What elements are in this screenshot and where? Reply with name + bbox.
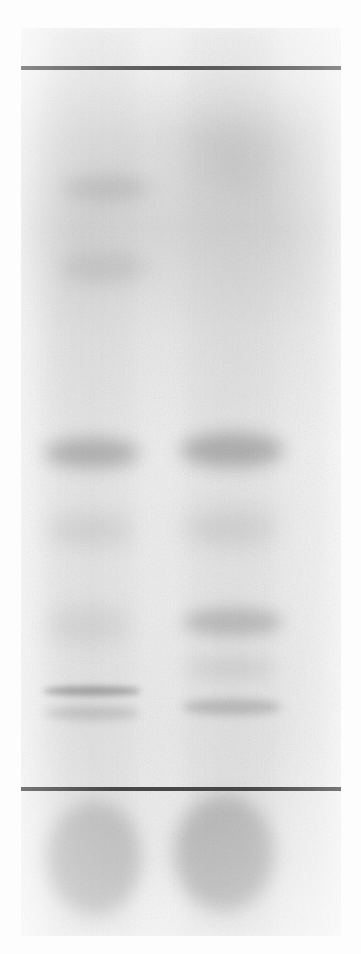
lane2-band-4 [183,608,283,636]
solvent-front-line [21,66,341,70]
lane1-band-2 [60,254,148,282]
origin-spot-lane-2 [174,795,274,911]
lane2-band-5 [185,658,277,678]
lane2-band-2 [180,433,284,467]
lane1-band-6 [43,686,141,696]
lane1-band-7 [44,706,140,720]
lane1-band-4 [46,514,134,546]
tlc-plate-figure: Thin-layer chromatography plate [0,0,361,954]
origin-spot-lane-1 [47,801,141,915]
lane2-band-3 [182,511,278,545]
chromatography-plate [21,28,341,936]
lane2-band-6 [182,699,282,715]
lane2-band-1 [188,110,292,190]
lane1-band-1 [60,176,152,200]
origin-line [21,787,341,791]
figure-title: Thin-layer chromatography plate [0,0,1,1]
lane1-band-3 [44,438,140,468]
lane-1-streak [40,28,144,936]
lane1-band-5 [46,607,130,643]
